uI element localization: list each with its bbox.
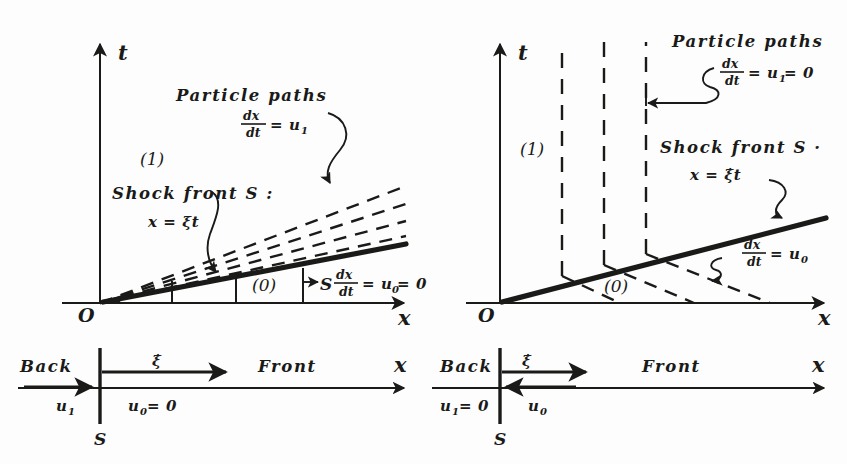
- t-axis-label-right: t: [518, 40, 528, 65]
- lower-frac-den-right: dt: [747, 254, 762, 269]
- pp-frac-den-right: dt: [725, 73, 740, 88]
- particle-paths-caption-right: Particle paths: [671, 32, 823, 51]
- lower-eq-rhs-right: = u: [770, 245, 801, 263]
- lower-equation-right: dx dt = u 0: [742, 237, 808, 269]
- u1-sub-right: 1: [452, 406, 459, 417]
- panel-bottom-left: Back Front x ξ̇ S u 1 u 0 = 0: [18, 348, 407, 449]
- lower-frac-num-right: dx: [744, 237, 761, 252]
- u1-label-left: u: [56, 397, 68, 415]
- panel-top-left: t x O (1) (0) Particle paths dx dt = u 1…: [62, 40, 427, 330]
- x-axis-label-right: x: [817, 305, 831, 330]
- u0-label-left: u: [128, 397, 140, 415]
- shock-front-leader-right: [769, 180, 786, 218]
- region-zero-label-right: (0): [604, 276, 628, 296]
- u1-label-group-left: u 1: [56, 397, 75, 417]
- shock-marker-left: S: [94, 429, 106, 449]
- u0-label-right: u: [528, 397, 540, 415]
- u1-label-right: u: [440, 397, 452, 415]
- front-equation-left: S dx dt = u 0 = 0: [320, 267, 427, 299]
- shock-front-caption-right: Shock front S ·: [660, 138, 822, 157]
- particle-paths-leader: [328, 113, 347, 183]
- shock-speed-label-left: ξ̇: [152, 352, 162, 370]
- shock-front-caption-left: Shock front S :: [112, 184, 274, 203]
- particle-paths-leader-right: [648, 68, 719, 103]
- u0-label-group-right: u 0: [528, 397, 547, 417]
- lower-equation-leader-right: [711, 258, 722, 281]
- shock-front-equation-right: x = ξ̇t: [689, 166, 741, 184]
- pp-frac-num-right: dx: [722, 56, 739, 71]
- front-frac-num-left: dx: [336, 267, 353, 282]
- shock-marker-right: S: [494, 429, 506, 449]
- u0-tail-left: = 0: [147, 397, 177, 415]
- particle-paths-caption-left: Particle paths: [175, 86, 327, 105]
- pp-eq-rhs-left: = u: [270, 116, 301, 134]
- x-label-bottom-left: x: [393, 352, 407, 377]
- particle-paths-equation-right: dx dt = u 1 = 0: [720, 56, 814, 88]
- u1-sub-left: 1: [68, 406, 75, 417]
- back-label-left: Back: [19, 357, 73, 376]
- particle-paths-equation-left: dx dt = u 1: [241, 108, 308, 140]
- shock-speed-label-right: ξ̇: [522, 352, 532, 370]
- origin-label-left: O: [78, 304, 95, 326]
- front-marker-left: S: [320, 274, 332, 294]
- lower-eq-sub-right: 0: [801, 254, 808, 265]
- front-eq-tail-left: = 0: [397, 275, 427, 293]
- x-axis-label-left: x: [397, 305, 411, 330]
- panel-bottom-right: Back Front x ξ̇ S u 1 = 0 u 0: [432, 348, 825, 449]
- front-label-left: Front: [257, 357, 317, 376]
- front-frac-den-left: dt: [339, 284, 354, 299]
- t-axis-label-left: t: [118, 40, 128, 65]
- pp-eq-rhs-right: = u: [748, 64, 779, 82]
- pp-frac-den-left: dt: [246, 125, 261, 140]
- figure-page: t x O (1) (0) Particle paths dx dt = u 1…: [0, 0, 847, 464]
- u0-sub-right: 0: [540, 406, 547, 417]
- figure-canvas: t x O (1) (0) Particle paths dx dt = u 1…: [0, 0, 847, 464]
- shock-front-equation-left: x = ξt: [147, 213, 199, 231]
- region-one-label-left: (1): [140, 149, 164, 169]
- u1-label-group-right: u 1 = 0: [440, 397, 489, 417]
- pp-frac-num-left: dx: [243, 108, 260, 123]
- panel-top-right: t x O (1) (0) Particle paths dx dt = u 1…: [466, 32, 831, 330]
- u0-sub-left: 0: [140, 406, 147, 417]
- region-zero-label-left: (0): [252, 275, 276, 295]
- u0-label-group-left: u 0 = 0: [128, 397, 177, 417]
- u1-tail-right: = 0: [459, 397, 489, 415]
- back-label-right: Back: [439, 357, 493, 376]
- region-one-label-right: (1): [520, 139, 544, 159]
- x-label-bottom-right: x: [811, 352, 825, 377]
- front-eq-rhs-left: = u: [362, 275, 393, 293]
- front-label-right: Front: [641, 357, 701, 376]
- pp-eq-sub-left: 1: [301, 125, 308, 136]
- origin-label-right: O: [478, 304, 495, 326]
- pp-eq-tail-right: = 0: [784, 64, 814, 82]
